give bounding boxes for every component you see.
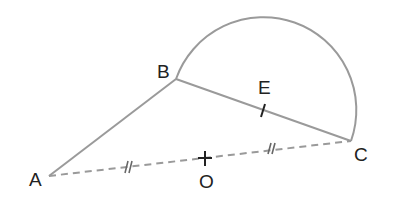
label-o: O [199,172,214,191]
double-tick-oc [268,143,275,154]
geometry-diagram: A B C O E [0,0,393,208]
diagram-canvas [0,0,393,208]
label-e: E [258,78,271,97]
double-tick-ao [125,161,132,173]
label-c: C [354,145,368,164]
label-a: A [29,170,42,189]
label-b: B [157,62,170,81]
midpoint-cross-o [198,151,212,166]
segment-ab [49,79,176,176]
